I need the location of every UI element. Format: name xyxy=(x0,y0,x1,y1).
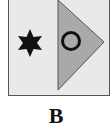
figure-label: B xyxy=(0,104,112,128)
figure-shapes xyxy=(0,0,112,100)
star-icon xyxy=(18,29,42,57)
